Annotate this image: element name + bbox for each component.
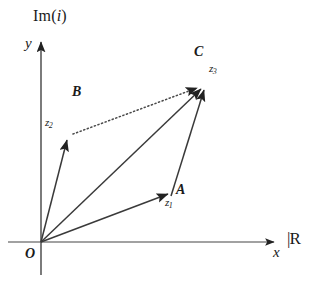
- imaginary-axis-label-text: Im(: [33, 7, 57, 24]
- vector-o-to-z2: [41, 140, 67, 242]
- point-label-z1: z1: [165, 197, 173, 208]
- point-label-z2-subscript: 2: [49, 121, 53, 130]
- point-label-z2: z2: [45, 117, 53, 128]
- y-axis-label: y: [25, 36, 32, 51]
- vector-o-to-z1: [41, 194, 168, 242]
- point-label-z3: z3: [209, 63, 217, 74]
- diagram-canvas: [0, 0, 318, 285]
- imaginary-axis-label: Im(i): [33, 8, 67, 24]
- side-label-c: C: [194, 45, 203, 59]
- imaginary-axis-label-close: ): [61, 7, 67, 24]
- side-label-b: B: [72, 85, 81, 99]
- origin-label: O: [25, 247, 35, 261]
- complex-plane-diagram: Im(i) y x |R O A B C z1 z2 z3: [0, 0, 318, 285]
- point-label-z1-subscript: 1: [169, 201, 173, 210]
- vector-o-to-z3: [41, 89, 201, 242]
- side-label-a: A: [176, 183, 185, 197]
- real-set-label: |R: [287, 230, 300, 247]
- x-axis-label: x: [273, 245, 280, 260]
- point-label-z3-subscript: 3: [213, 67, 217, 76]
- vector-z1-to-z3: [171, 90, 204, 196]
